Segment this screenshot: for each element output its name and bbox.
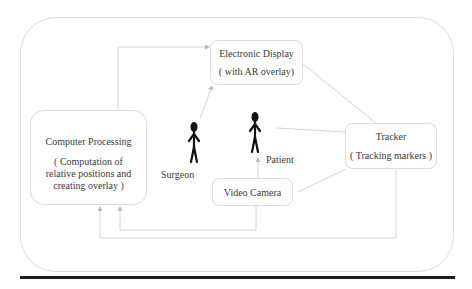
ar-surgery-system-diagram: Electronic Display ( with AR overlay) Co… — [0, 0, 472, 289]
bottom-rule — [20, 276, 455, 279]
patient-figure-icon — [0, 0, 472, 289]
patient-label: Patient — [266, 154, 294, 165]
